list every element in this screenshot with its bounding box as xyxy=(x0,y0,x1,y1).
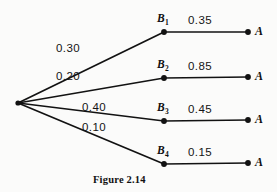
branch-line-b2 xyxy=(18,78,164,103)
prior-probability-b3: 0.40 xyxy=(82,102,106,114)
terminal-label-a1: A xyxy=(255,25,263,37)
node-label-b1-subscript: 1 xyxy=(165,18,169,27)
node-dot-b4 xyxy=(161,161,167,167)
node-dot-b1 xyxy=(161,29,167,35)
node-dot-a3 xyxy=(245,117,251,123)
conditional-probability-b2-a: 0.85 xyxy=(188,61,212,73)
node-label-b2-letter: B xyxy=(157,58,165,70)
node-dot-a4 xyxy=(245,160,251,166)
node-label-b4-letter: B xyxy=(157,144,165,156)
branch-line-b1 xyxy=(18,32,164,103)
node-dot-b3 xyxy=(161,118,167,124)
node-label-b3-letter: B xyxy=(157,101,165,113)
figure-caption: Figure 2.14 xyxy=(93,174,146,185)
node-label-b2: B2 xyxy=(157,59,168,71)
conditional-probability-b1-a: 0.35 xyxy=(188,15,212,27)
node-label-b1: B1 xyxy=(157,13,168,25)
node-label-b2-subscript: 2 xyxy=(165,64,169,73)
prior-probability-b1: 0.30 xyxy=(56,43,80,55)
prior-probability-b2: 0.20 xyxy=(56,71,80,83)
branch-line-b3-a xyxy=(164,120,248,121)
node-dot-a2 xyxy=(245,74,251,80)
branch-line-b4-a xyxy=(164,163,248,164)
node-label-b3: B3 xyxy=(157,102,168,114)
probability-tree-svg xyxy=(0,0,277,192)
conditional-probability-b3-a: 0.45 xyxy=(188,104,212,116)
conditional-probability-b4-a: 0.15 xyxy=(188,147,212,159)
terminal-label-a4: A xyxy=(255,156,263,168)
terminal-label-a2: A xyxy=(255,70,263,82)
node-label-b1-letter: B xyxy=(157,12,165,24)
node-dot-b2 xyxy=(161,75,167,81)
node-dot-a1 xyxy=(245,29,251,35)
branch-line-b2-a xyxy=(164,77,248,78)
prior-probability-b4: 0.10 xyxy=(82,122,106,134)
node-label-b3-subscript: 3 xyxy=(165,107,169,116)
figure-container: 0.30 0.20 0.40 0.10 0.35 0.85 0.45 0.15 … xyxy=(0,0,277,192)
root-node-dot xyxy=(15,100,20,105)
node-label-b4-subscript: 4 xyxy=(165,150,169,159)
node-label-b4: B4 xyxy=(157,145,168,157)
terminal-label-a3: A xyxy=(255,113,263,125)
